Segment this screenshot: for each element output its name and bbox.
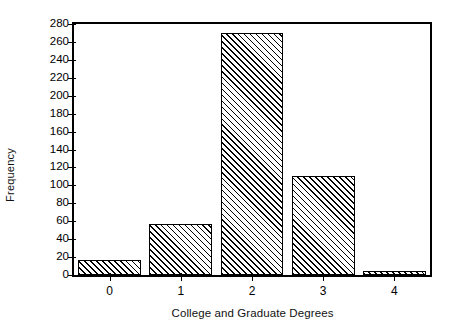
plot-area: 0204060801001201401601802002202402602800… bbox=[72, 22, 432, 277]
y-tick-mark bbox=[68, 185, 76, 186]
y-tick-label: 60 bbox=[56, 215, 69, 227]
y-axis-title: Frequency bbox=[0, 0, 20, 332]
y-tick-label: 20 bbox=[56, 251, 69, 263]
y-tick-label: 280 bbox=[50, 18, 69, 30]
y-tick-label: 240 bbox=[50, 54, 69, 66]
x-tick-label: 4 bbox=[391, 285, 398, 297]
y-tick-mark bbox=[68, 132, 76, 133]
x-tick-label: 0 bbox=[106, 285, 113, 297]
y-tick-label: 40 bbox=[56, 233, 69, 245]
y-tick-mark bbox=[68, 167, 76, 168]
y-tick-label: 80 bbox=[56, 198, 69, 210]
bar-3 bbox=[292, 176, 355, 275]
x-tick-mark bbox=[394, 273, 395, 281]
y-tick-label: 120 bbox=[50, 162, 69, 174]
y-tick-mark bbox=[68, 150, 76, 151]
y-tick-label: 260 bbox=[50, 36, 69, 48]
y-tick-label: 200 bbox=[50, 90, 69, 102]
y-tick-mark bbox=[68, 114, 76, 115]
histogram-figure: Frequency 020406080100120140160180200220… bbox=[0, 0, 455, 332]
y-tick-mark bbox=[68, 203, 76, 204]
y-tick-label: 160 bbox=[50, 126, 69, 138]
y-tick-mark bbox=[68, 275, 76, 276]
y-tick-label: 220 bbox=[50, 72, 69, 84]
x-tick-label: 1 bbox=[177, 285, 184, 297]
x-tick-mark bbox=[252, 273, 253, 281]
x-tick-label: 3 bbox=[320, 285, 327, 297]
y-tick-label: 140 bbox=[50, 144, 69, 156]
x-axis-title: College and Graduate Degrees bbox=[70, 307, 435, 319]
y-tick-label: 0 bbox=[63, 269, 69, 281]
y-tick-mark bbox=[68, 78, 76, 79]
y-tick-mark bbox=[68, 60, 76, 61]
y-tick-mark bbox=[68, 96, 76, 97]
y-tick-mark bbox=[68, 42, 76, 43]
bars-container bbox=[74, 24, 430, 275]
y-tick-mark bbox=[68, 221, 76, 222]
x-tick-label: 2 bbox=[249, 285, 256, 297]
x-tick-mark bbox=[323, 273, 324, 281]
bar-1 bbox=[149, 224, 212, 275]
y-axis-title-text: Frequency bbox=[4, 148, 16, 202]
y-tick-mark bbox=[68, 24, 76, 25]
y-tick-mark bbox=[68, 257, 76, 258]
y-tick-label: 180 bbox=[50, 108, 69, 120]
bar-2 bbox=[221, 33, 284, 275]
x-tick-mark bbox=[110, 273, 111, 281]
y-tick-label: 100 bbox=[50, 180, 69, 192]
y-tick-mark bbox=[68, 239, 76, 240]
x-tick-mark bbox=[181, 273, 182, 281]
